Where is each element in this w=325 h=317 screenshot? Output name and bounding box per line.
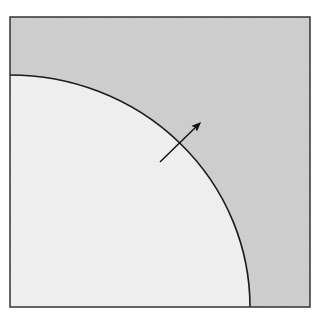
- diagram-canvas: [0, 0, 325, 317]
